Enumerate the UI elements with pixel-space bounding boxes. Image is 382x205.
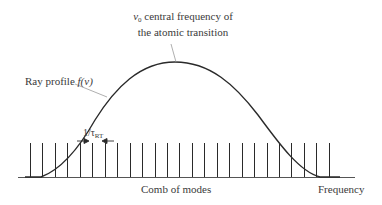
mode-comb <box>31 143 330 177</box>
mode-spacing-label: 1/τRT <box>83 127 103 142</box>
peak-leader-line <box>171 44 176 62</box>
frequency-axis-label: Frequency <box>318 183 364 195</box>
peak-label-line1: central frequency of <box>142 10 233 22</box>
spacing-text: 1/τ <box>83 127 95 138</box>
spacing-subscript: RT <box>95 132 104 140</box>
comb-of-modes-label: Comb of modes <box>141 183 211 195</box>
profile-label: Ray profile f(ν) <box>25 75 93 87</box>
profile-label-text: Ray profile <box>25 75 78 87</box>
profile-function: f(ν) <box>78 75 93 87</box>
peak-frequency-label: ν0 central frequency of the atomic trans… <box>118 10 248 38</box>
peak-label-line2: the atomic transition <box>118 26 248 38</box>
